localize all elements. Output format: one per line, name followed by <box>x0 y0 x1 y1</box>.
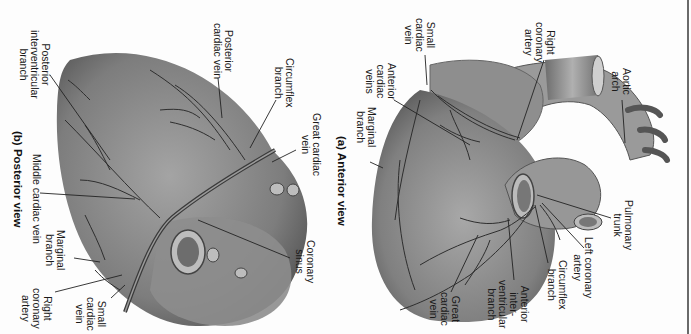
label-great-cardiac-vein-posterior: Great cardiac vein <box>300 113 322 176</box>
posterior-heart <box>57 53 307 326</box>
label-posterior-interventricular-branch: Posterior interventricular branch <box>18 30 51 99</box>
label-great-cardiac-vein-anterior: Great cardiac vein <box>428 292 461 326</box>
label-middle-cardiac-vein: Middle cardiac vein <box>31 154 42 244</box>
label-coronary-sinus: Coronary sinus <box>294 240 316 283</box>
page-edge-divider <box>687 0 689 334</box>
label-small-cardiac-vein-posterior: Small cardiac vein <box>74 297 107 331</box>
label-circumflex-branch-posterior: Circumflex branch <box>273 58 295 108</box>
label-posterior-cardiac-vein: Posterior cardiac vein <box>212 23 234 79</box>
coronary-circulation-figure: (b) Posterior view Posterior interventri… <box>0 0 691 334</box>
label-pulmonary-trunk: Pulmonary trunk <box>612 200 634 250</box>
label-marginal-branch-anterior: Marginal branch <box>355 107 377 147</box>
caption-posterior-view: (b) Posterior view <box>12 131 24 228</box>
label-right-coronary-artery-posterior: Right coronary artery <box>20 288 53 329</box>
label-circumflex-branch-anterior: Circumflex branch <box>546 260 568 310</box>
caption-anterior-view: (a) Anterior view <box>336 136 348 226</box>
label-aortic-arch: Aortic arch <box>610 68 632 95</box>
label-anterior-cardiac-veins: Anterior cardiac veins <box>364 63 397 100</box>
label-marginal-branch-posterior: Marginal branch <box>44 230 66 270</box>
label-right-coronary-artery-anterior: Right coronary artery <box>523 22 556 63</box>
label-small-cardiac-vein-anterior: Small cardiac vein <box>403 18 436 52</box>
label-left-coronary-artery: Left coronary artery <box>572 237 594 298</box>
label-anterior-interventricular-branch: Anterior inter- ventricular branch <box>486 280 530 328</box>
